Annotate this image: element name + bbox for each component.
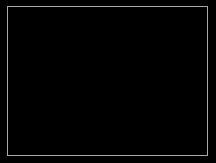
source-upper-right xyxy=(131,7,171,46)
image-viewer xyxy=(0,0,216,163)
source-upper-right-lobe-lower xyxy=(141,25,160,40)
sky-field xyxy=(8,7,207,155)
source-lower-left xyxy=(17,67,45,95)
source-lower-left-core xyxy=(26,76,37,86)
source-upper-right-halo xyxy=(131,7,171,45)
source-upper-right-core xyxy=(144,17,159,31)
source-lower-left-halo xyxy=(17,68,45,94)
